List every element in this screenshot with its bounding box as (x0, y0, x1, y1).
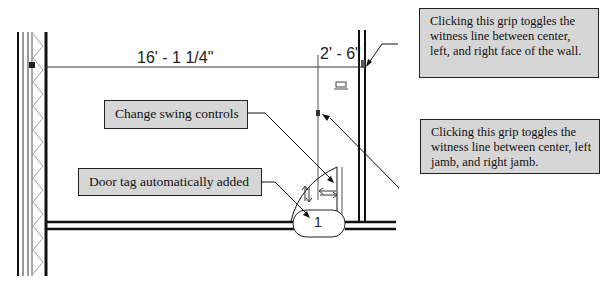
floor-plan-diagram: 16' - 1 1/4" 2' - 6" 1 Change swing cont… (0, 0, 604, 283)
left-wall (18, 32, 46, 276)
jamb-grip[interactable] (316, 110, 320, 116)
door-tag-number: 1 (314, 214, 322, 230)
callout-jamb-grip: Clicking this grip toggles the witness l… (420, 119, 600, 174)
right-wall (359, 30, 396, 222)
door-offset-dimension-value[interactable]: 2' - 6" (320, 45, 361, 63)
leader-lines (248, 44, 399, 215)
wall-grip-right[interactable] (361, 60, 365, 68)
main-dimension-value[interactable]: 16' - 1 1/4" (137, 49, 213, 67)
callout-change-swing: Change swing controls (104, 100, 248, 129)
wall-grip-left[interactable] (29, 62, 35, 68)
flip-dimension-icon[interactable] (334, 82, 348, 89)
callout-wall-grip: Clicking this grip toggles the witness l… (419, 8, 599, 78)
flip-swing-horizontal-icon[interactable] (319, 188, 337, 198)
callout-door-tag: Door tag automatically added (78, 168, 262, 196)
